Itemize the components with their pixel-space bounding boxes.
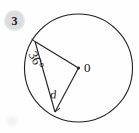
radius-lower-segment	[55, 68, 79, 112]
problem-number-label: 3	[12, 15, 18, 27]
problem-number-badge: 3	[4, 10, 25, 31]
center-label: 0	[84, 61, 91, 74]
center-point-dot	[77, 66, 80, 69]
side-label-d: d	[50, 88, 57, 101]
scan-artifact-smudge	[7, 116, 17, 126]
figure-page: 0 36° d 3	[0, 0, 139, 133]
